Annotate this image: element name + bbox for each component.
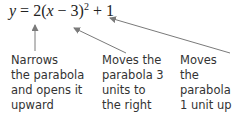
arrow-horizontal-shift	[74, 28, 126, 53]
annotation-vertical-shift: Moves the parabola 1 unit up	[180, 53, 237, 113]
annotation-narrows: Narrows the parabola and opens it upward	[11, 53, 84, 113]
annotation-horizontal-shift: Moves the parabola 3 units to the right	[102, 53, 164, 113]
arrow-vertical-shift	[110, 18, 230, 53]
